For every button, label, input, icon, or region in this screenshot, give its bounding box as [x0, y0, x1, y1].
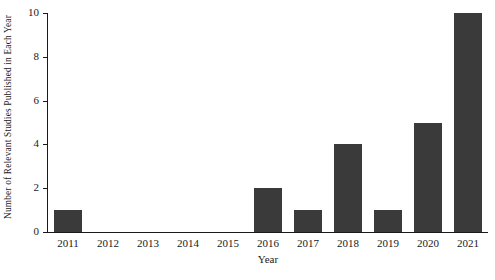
x-tick-label-2011: 2011 [48, 236, 88, 250]
x-axis-spine [47, 232, 488, 233]
x-tick-label-2021: 2021 [448, 236, 488, 250]
y-tick-label-6: 6 [16, 95, 43, 106]
x-tick-label-2013: 2013 [128, 236, 168, 250]
bar-2021 [454, 13, 483, 232]
bar-chart: Number of Relevant Studies Published in … [0, 0, 495, 280]
x-tick-label-2012: 2012 [88, 236, 128, 250]
bar-2018 [334, 144, 363, 232]
y-tick-label-2: 2 [16, 182, 43, 193]
x-tick-label-2015: 2015 [208, 236, 248, 250]
y-tick-label-0: 0 [16, 226, 43, 237]
x-tick-label-2018: 2018 [328, 236, 368, 250]
plot-area [48, 13, 488, 232]
bar-2019 [374, 210, 403, 232]
bar-2017 [294, 210, 323, 232]
x-tick-label-2016: 2016 [248, 236, 288, 250]
bar-2020 [414, 123, 443, 233]
x-tick-label-2019: 2019 [368, 236, 408, 250]
bar-2016 [254, 188, 283, 232]
x-tick-label-2017: 2017 [288, 236, 328, 250]
x-tick-label-2014: 2014 [168, 236, 208, 250]
y-tick-label-10: 10 [16, 7, 43, 18]
y-tick-label-8: 8 [16, 51, 43, 62]
y-axis-tick-labels: 0246810 [16, 0, 43, 280]
x-axis-title: Year [248, 252, 288, 266]
y-tick-label-4: 4 [16, 138, 43, 149]
y-axis-title: Number of Relevant Studies Published in … [0, 1, 16, 233]
x-tick-label-2020: 2020 [408, 236, 448, 250]
bar-2011 [54, 210, 83, 232]
